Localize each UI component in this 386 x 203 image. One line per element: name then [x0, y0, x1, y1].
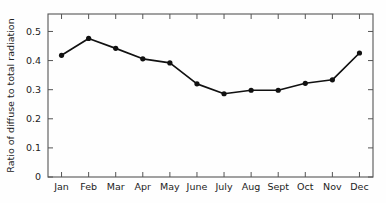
data-point-marker[interactable]: [167, 60, 172, 65]
x-axis-tick-label: Dec: [350, 181, 368, 192]
x-axis-tick-label: Nov: [323, 181, 342, 192]
plot-frame: [48, 14, 373, 177]
data-point-marker[interactable]: [140, 56, 145, 61]
data-point-marker[interactable]: [276, 88, 281, 93]
data-point-marker[interactable]: [330, 77, 335, 82]
chart-container: 00.10.20.30.40.5JanFebMarAprMayJuneJulyA…: [0, 0, 386, 203]
x-axis-tick-label: May: [160, 181, 180, 192]
y-axis-title: Ratio of diffuse to total radiation: [5, 18, 16, 172]
x-axis-tick-label: Feb: [80, 181, 97, 192]
x-axis-tick-label: Sept: [267, 181, 289, 192]
x-axis-tick-label: June: [186, 181, 208, 192]
x-axis-tick-label: Apr: [135, 181, 152, 192]
data-point-marker[interactable]: [303, 81, 308, 86]
data-point-marker[interactable]: [249, 88, 254, 93]
data-point-marker[interactable]: [59, 53, 64, 58]
series-line: [62, 38, 360, 93]
y-axis-tick-label: 0.1: [26, 142, 41, 153]
y-axis-tick-label: 0.5: [26, 26, 41, 37]
y-axis-tick-label: 0.3: [26, 84, 41, 95]
x-axis-tick-label: Mar: [107, 181, 125, 192]
line-chart: 00.10.20.30.40.5JanFebMarAprMayJuneJulyA…: [0, 0, 386, 203]
data-point-marker[interactable]: [86, 36, 91, 41]
data-point-marker[interactable]: [221, 91, 226, 96]
data-point-marker[interactable]: [113, 46, 118, 51]
x-axis-tick-label: Jan: [53, 181, 69, 192]
y-axis-tick-label: 0: [35, 171, 41, 182]
x-axis-tick-label: Aug: [242, 181, 261, 192]
x-axis-tick-label: July: [214, 181, 232, 192]
y-axis-tick-label: 0.2: [26, 113, 41, 124]
x-axis-tick-label: Oct: [297, 181, 314, 192]
y-axis-tick-label: 0.4: [26, 55, 41, 66]
data-point-marker[interactable]: [194, 81, 199, 86]
data-point-marker[interactable]: [357, 50, 362, 55]
